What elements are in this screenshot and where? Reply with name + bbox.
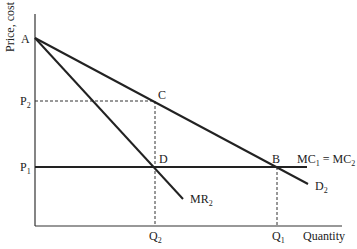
price-p2-label: P2 [20,94,31,110]
point-a-label: A [21,32,30,46]
quantity-q1-label: Q1 [272,229,285,245]
monopoly-diagram: Price, cost Quantity A C D B P2 P1 Q2 Q1… [0,0,357,249]
demand-label: D2 [315,179,328,195]
quantity-q2-label: Q2 [149,229,162,245]
mr-label: MR2 [190,192,213,208]
mc-label: MC1 = MC2 [297,152,355,168]
x-axis-label: Quantity [303,229,345,243]
point-c-label: C [158,88,166,102]
point-b-label: B [272,152,280,166]
y-axis-label: Price, cost [3,1,17,52]
point-d-label: D [159,152,168,166]
marginal-revenue-curve [35,38,183,199]
price-p1-label: P1 [20,160,31,176]
demand-curve [35,38,308,184]
